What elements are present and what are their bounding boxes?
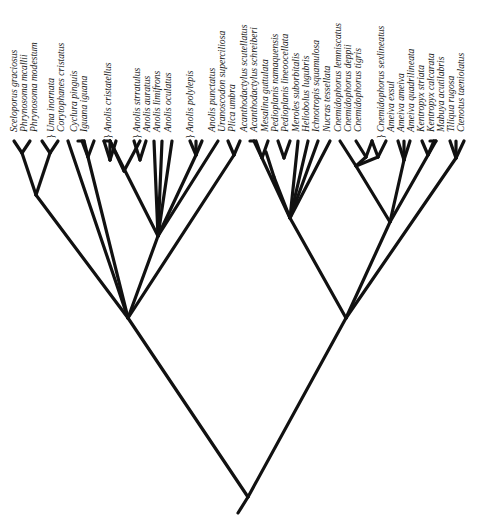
tree-branch (42, 141, 50, 153)
tree-branch (356, 166, 390, 222)
tree-branch (278, 141, 284, 158)
tip-label: Ichnotropis squamulosa (311, 40, 321, 132)
tree-branch (128, 155, 234, 318)
tree-branch (88, 141, 94, 157)
tree-branch (274, 177, 290, 218)
tip-label: Acanthodactylus schreiberi (249, 27, 259, 132)
tree-branch (340, 141, 356, 166)
tree-branch (372, 141, 378, 157)
tip-label: Plica umbra (227, 84, 237, 132)
tree-branch (22, 141, 30, 153)
tree-branch (128, 318, 248, 497)
tip-label: Corytophanes cristatus (56, 43, 66, 132)
tree-branch (290, 218, 346, 318)
brace-mark: } (102, 134, 113, 139)
tip-label: Pedioplanis lineoocellata (280, 34, 290, 132)
tree-branch (22, 153, 36, 195)
tip-label: Anolis oculatus (163, 73, 173, 132)
brace-mark: } (375, 134, 386, 139)
tree-branch (158, 141, 218, 236)
tree-branch (228, 141, 234, 155)
tree-branch (422, 141, 428, 155)
tip-label: Anolis polylepis (185, 70, 195, 132)
tree-branch (238, 497, 248, 513)
tree-branch (366, 141, 372, 157)
brace-mark: } (131, 134, 142, 139)
tree-branch (284, 141, 290, 158)
tip-label: Iguana iguana (79, 76, 89, 132)
tree-branch (68, 141, 128, 318)
tip-label: Nucras tessellata (322, 66, 332, 132)
tree-branch (14, 141, 22, 153)
tree-branch (50, 141, 58, 153)
tip-label: Phrynosoma modestum (29, 42, 39, 132)
tip-label: Anolis limifrons (152, 71, 162, 132)
tree-branch (346, 222, 390, 318)
tree-branch (378, 141, 386, 157)
tree-branch (234, 141, 240, 155)
tree-branch (356, 141, 366, 157)
tree-branch (346, 158, 456, 318)
brace-mark: } (184, 134, 195, 139)
tree-branch (36, 153, 50, 195)
tree-branch (248, 318, 346, 497)
tree-branch (140, 141, 146, 160)
tip-label: Cnemidophorus tigris (353, 48, 363, 132)
brace-mark: } (45, 134, 56, 139)
tip-label: Anolis cristatellus (103, 62, 113, 132)
tip-label: Ctenotus taeniolatus (456, 53, 466, 132)
